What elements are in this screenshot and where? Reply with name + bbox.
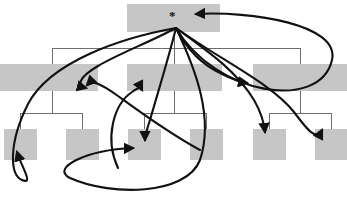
diagram-canvas: * (0, 0, 347, 209)
arrow-left-branch-up (87, 83, 200, 150)
curved-arrow-layer-extra (0, 0, 347, 209)
